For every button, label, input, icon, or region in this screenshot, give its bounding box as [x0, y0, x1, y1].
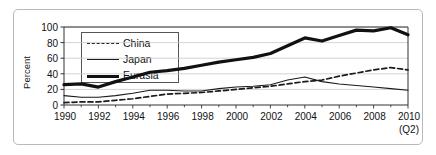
series-line-eurasia: [64, 28, 408, 87]
line-chart-plot: [0, 0, 436, 155]
